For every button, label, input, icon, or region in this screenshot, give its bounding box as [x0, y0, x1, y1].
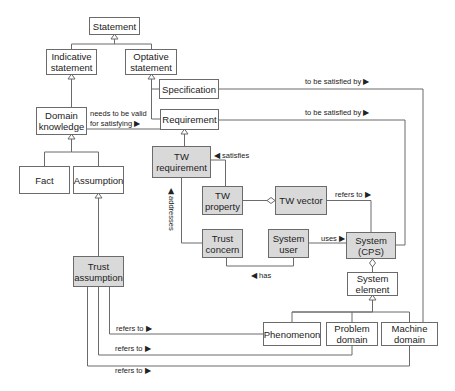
label-needs-valid-line1: needs to be valid: [90, 109, 147, 118]
class-tw-property: TW property: [202, 186, 243, 215]
class-assumption: Assumption: [73, 166, 124, 194]
class-optative-statement: Optative statement: [125, 49, 177, 75]
class-statement: Statement: [89, 17, 140, 35]
class-system-cps: System (CPS): [346, 232, 396, 259]
class-problem-domain: Problem domain: [326, 322, 378, 346]
class-requirement: Requirement: [160, 109, 219, 130]
label-refers-to-vector: refers to ▶: [335, 190, 371, 199]
label-refers-to-problem-domain: refers to ▶: [115, 344, 151, 353]
label-spec-satisfied-by: to be satisfied by ▶: [305, 77, 369, 86]
class-specification: Specification: [159, 79, 219, 99]
class-system-user: System user: [268, 229, 309, 258]
class-domain-knowledge: Domain knowledge: [36, 107, 87, 135]
class-trust-assumption: Trust assumption: [73, 256, 124, 287]
label-refers-to-phenomenon: refers to ▶: [116, 324, 152, 333]
label-satisfies: ◀ satisfies: [214, 151, 249, 160]
label-refers-to-machine-domain: refers to ▶: [115, 366, 151, 375]
label-addresses: ◀ addresses: [167, 188, 176, 231]
class-indicative-statement: Indicative statement: [46, 49, 97, 75]
label-has: ◀ has: [251, 271, 271, 280]
aggregation-diamond-system: [370, 259, 376, 267]
class-system-element: System element: [347, 272, 398, 296]
class-trust-concern: Trust concern: [202, 229, 243, 258]
class-fact: Fact: [19, 166, 70, 194]
class-phenomenon: Phenomenon: [263, 322, 321, 346]
label-uses: uses ▶: [321, 234, 345, 243]
class-tw-vector: TW vector: [275, 186, 327, 215]
aggregation-diamond-tw-vector: [267, 198, 275, 204]
label-needs-valid-line2: for satisfying ▶: [90, 119, 140, 128]
label-req-satisfied-by: to be satisfied by ▶: [305, 108, 369, 117]
class-tw-requirement: TW requirement: [152, 146, 211, 178]
class-machine-domain: Machine domain: [381, 322, 438, 346]
